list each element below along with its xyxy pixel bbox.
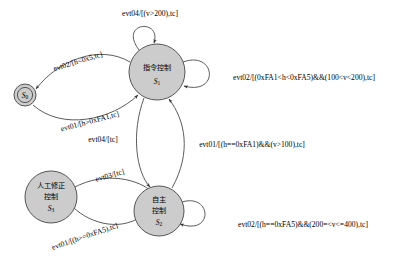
edge-s1-self-right: [183, 60, 209, 87]
edge-s2-to-s3: [70, 204, 142, 224]
state-node-s3[interactable]: 人工修正 控制 S3: [25, 171, 77, 223]
edge-label-s1-to-s0: evt02/[h<0x5,tc]: [52, 50, 103, 73]
state-node-s0[interactable]: S0: [14, 84, 36, 106]
edge-label-s2-to-s3: evt01/[(h>=0xFA5),tc]: [50, 221, 119, 252]
edge-s0-to-s1: [33, 95, 138, 120]
edge-s2-to-s1: [169, 99, 184, 188]
edge-label-s1-to-s2: evt04/[tc]: [88, 135, 118, 144]
state-s1-name: 指令控制: [143, 63, 171, 72]
state-s2-name-line1: 自主: [152, 195, 166, 204]
edge-label-s0-to-s1: evt01/[h>0xFA1,tc]: [60, 109, 120, 133]
edge-label-s3-to-s2: evt03/[tc]: [94, 167, 125, 184]
edge-label-s1-self-top: evt04/[(v>200),tc]: [122, 9, 178, 18]
state-s2-name-line2: 控制: [152, 206, 166, 215]
state-machine-canvas: S0 指令控制 S1 自主 控制 S2 人工修正 控制 S3: [0, 0, 409, 270]
edge-s1-to-s2: [136, 98, 150, 187]
state-node-s2[interactable]: 自主 控制 S2: [134, 186, 184, 236]
edge-s3-to-s2: [73, 178, 152, 192]
state-s3-name-line2: 控制: [44, 192, 58, 201]
state-s3-name-line1: 人工修正: [37, 181, 65, 190]
edge-label-s2-self-right: evt02/[(h==0xFA5)&&(200=<v<=400),tc]: [238, 220, 368, 229]
edge-label-s1-self-right: evt02/[(0xFA1<h<0xFA5)&&(100<v<200),tc]: [233, 73, 375, 82]
edge-label-s2-to-s1: evt01/[(h==0xFA1)&&(v>100),tc]: [199, 140, 305, 149]
state-node-s1[interactable]: 指令控制 S1: [129, 44, 185, 100]
state-diagram: S0 指令控制 S1 自主 控制 S2 人工修正 控制 S3: [0, 0, 409, 270]
